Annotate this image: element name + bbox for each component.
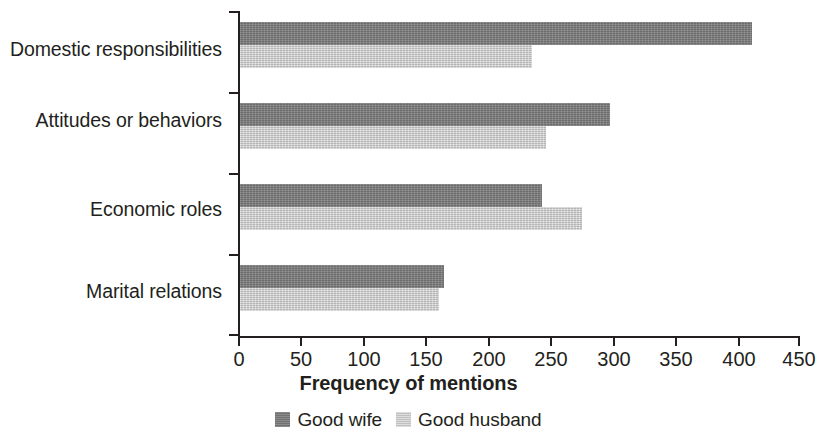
y-axis-tick	[229, 92, 238, 94]
bar-good-wife-economic-roles	[240, 184, 542, 207]
bar-good-wife-attitudes-or-behaviors	[240, 103, 610, 126]
legend-item-good-wife: Good wife	[275, 410, 382, 429]
x-tick-label-150: 150	[409, 349, 442, 369]
bar-good-husband-attitudes-or-behaviors	[240, 126, 546, 149]
category-label-domestic-responsibilities: Domestic responsibilities	[10, 40, 222, 60]
x-axis-tick	[613, 338, 615, 346]
y-axis-tick	[229, 254, 238, 256]
category-label-marital-relations: Marital relations	[86, 282, 222, 302]
category-label-attitudes-or-behaviors: Attitudes or behaviors	[36, 111, 222, 131]
x-axis-tick	[550, 338, 552, 346]
bar-chart: Domestic responsibilities Attitudes or b…	[0, 0, 817, 441]
x-axis-tick	[738, 338, 740, 346]
x-tick-label-250: 250	[534, 349, 567, 369]
x-axis-tick	[425, 338, 427, 346]
bar-good-wife-marital-relations	[240, 265, 444, 288]
plot-area: 0 50 100 150 200 250 300 350 400 450	[238, 11, 800, 336]
x-tick-label-100: 100	[347, 349, 380, 369]
legend-item-good-husband: Good husband	[396, 410, 541, 429]
y-axis-tick	[229, 173, 238, 175]
bar-good-husband-marital-relations	[240, 288, 439, 311]
x-axis-tick	[798, 338, 800, 346]
legend-swatch-icon-good-husband	[396, 412, 411, 427]
x-axis-tick	[488, 338, 490, 346]
bar-good-husband-domestic-responsibilities	[240, 45, 532, 68]
x-tick-label-200: 200	[472, 349, 505, 369]
category-label-economic-roles: Economic roles	[90, 200, 222, 220]
legend-swatch-icon-good-wife	[275, 412, 290, 427]
x-axis-tick	[363, 338, 365, 346]
y-axis-tick	[229, 334, 238, 336]
chart-legend: Good wife Good husband	[0, 410, 817, 429]
legend-label-good-wife: Good wife	[297, 410, 382, 429]
y-axis-tick	[229, 11, 238, 13]
x-tick-label-50: 50	[290, 349, 312, 369]
bar-good-husband-economic-roles	[240, 207, 582, 230]
x-axis-title: Frequency of mentions	[0, 372, 817, 395]
x-tick-label-300: 300	[597, 349, 630, 369]
legend-label-good-husband: Good husband	[418, 410, 541, 429]
x-tick-label-350: 350	[659, 349, 692, 369]
x-axis-tick	[675, 338, 677, 346]
bar-good-wife-domestic-responsibilities	[240, 22, 752, 45]
x-axis-tick	[300, 338, 302, 346]
x-tick-label-400: 400	[722, 349, 755, 369]
x-tick-label-0: 0	[233, 349, 244, 369]
x-axis-line	[238, 336, 800, 338]
x-axis-tick	[238, 338, 240, 346]
x-tick-label-450: 450	[782, 349, 815, 369]
